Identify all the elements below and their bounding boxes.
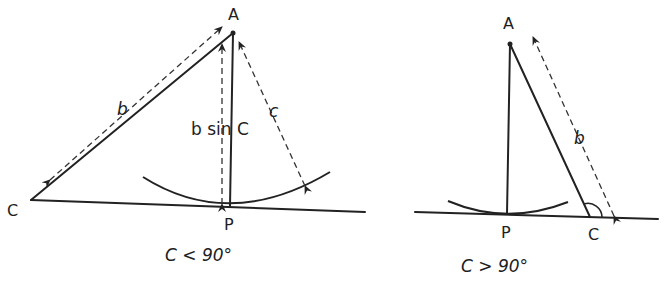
left-label-c-side: c (269, 101, 279, 121)
left-figure: A C P b c b sin C C < 90° (7, 5, 365, 265)
right-condition-label: C > 90° (461, 256, 528, 276)
left-point-a (231, 31, 236, 36)
left-label-bsinc: b sin C (191, 119, 249, 139)
left-label-c: C (7, 201, 18, 220)
right-figure: A P C b C > 90° (415, 14, 658, 276)
left-label-a: A (228, 5, 239, 24)
left-baseline (31, 200, 365, 212)
left-label-p: P (224, 215, 234, 234)
right-label-a: A (503, 14, 514, 33)
diagram-canvas: A C P b c b sin C C < 90° A P C b C > 90… (0, 0, 670, 282)
left-side-b-line (31, 33, 233, 200)
right-b-dimension-arrow (533, 37, 614, 216)
left-condition-label: C < 90° (165, 245, 232, 265)
right-label-b: b (574, 128, 585, 148)
left-arc (143, 172, 330, 203)
right-label-c: C (588, 225, 599, 244)
right-point-a (508, 42, 513, 47)
left-b-dimension-arrow (50, 27, 222, 180)
left-label-b: b (117, 99, 128, 119)
right-baseline (415, 212, 658, 219)
right-height-line (507, 44, 510, 214)
right-label-p: P (501, 223, 511, 242)
